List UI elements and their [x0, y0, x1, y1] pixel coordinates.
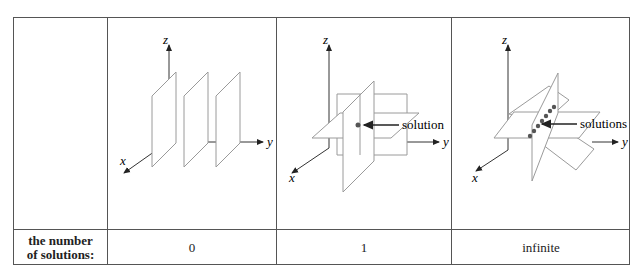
y-axis-label: y	[620, 134, 628, 149]
solution-count-cell: infinite	[452, 230, 630, 265]
plane	[152, 72, 240, 167]
solution-count-cell: 0	[108, 230, 276, 265]
row-header-line-2: of solutions:	[27, 248, 95, 262]
x-axis-label: x	[119, 153, 126, 168]
solution-count-cell: 1	[277, 230, 451, 265]
x-axis-label: x	[471, 170, 478, 185]
solutions-table: z y x solution z y x	[13, 17, 630, 265]
x-axis-label: x	[288, 170, 295, 185]
y-axis-label: y	[265, 134, 273, 149]
z-axis-label: z	[501, 32, 507, 47]
diagram-point-intersection: solution z y x	[277, 18, 451, 229]
solutions-label: solutions	[580, 116, 627, 131]
row-header: the number of solutions:	[14, 230, 107, 265]
z-axis-label: z	[322, 32, 328, 47]
empty-header-cell	[14, 18, 107, 229]
solution-point	[356, 123, 361, 128]
plane	[312, 81, 419, 192]
diagram-line-intersection: solutions z y x	[452, 18, 630, 229]
z-axis-label: z	[162, 32, 168, 47]
diagram-parallel-planes: z y x	[108, 18, 276, 229]
row-header-line-1: the number	[28, 234, 93, 248]
y-axis-label: y	[441, 134, 449, 149]
solution-label: solution	[402, 117, 444, 132]
